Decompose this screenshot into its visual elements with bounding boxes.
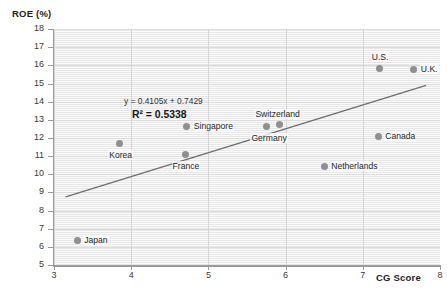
- plot-area: JapanKoreaFranceSingaporeGermanySwitzerl…: [54, 29, 440, 265]
- gridline-horizontal: [54, 29, 440, 30]
- regression-annotation: y = 0.4105x + 0.7429 R² = 0.5338: [124, 96, 203, 120]
- y-tick-mark: [48, 65, 53, 66]
- x-axis-line: [53, 265, 441, 267]
- data-point-label: Switzerland: [254, 109, 300, 119]
- y-tick-mark: [48, 29, 53, 30]
- gridline-horizontal: [54, 229, 440, 230]
- y-tick-label: 8: [14, 205, 44, 215]
- x-tick-mark: [131, 265, 132, 270]
- y-tick-mark: [48, 211, 53, 212]
- y-tick-mark: [48, 156, 53, 157]
- y-tick-label: 17: [14, 41, 44, 51]
- gridline-vertical: [208, 29, 209, 265]
- y-tick-label: 18: [14, 23, 44, 33]
- y-tick-label: 7: [14, 223, 44, 233]
- y-tick-mark: [48, 120, 53, 121]
- y-tick-mark: [48, 229, 53, 230]
- gridline-horizontal: [54, 174, 440, 175]
- data-point-label: France: [172, 161, 201, 171]
- x-tick-mark: [363, 265, 364, 270]
- data-point[interactable]: [263, 123, 270, 130]
- data-point-label: U.S.: [371, 52, 390, 62]
- gridline-horizontal: [54, 138, 440, 139]
- gridline-vertical: [131, 29, 132, 265]
- y-tick-label: 11: [14, 150, 44, 160]
- y-axis-title: ROE (%): [12, 8, 51, 19]
- y-tick-label: 5: [14, 259, 44, 269]
- scatter-chart: ROE (%) JapanKoreaFranceSingaporeGermany…: [0, 0, 447, 292]
- y-tick-label: 10: [14, 168, 44, 178]
- y-tick-mark: [48, 192, 53, 193]
- gridline-horizontal: [54, 84, 440, 85]
- x-tick-mark: [440, 265, 441, 270]
- data-point-label: Japan: [83, 235, 108, 245]
- data-point-label: Singapore: [193, 121, 234, 131]
- x-tick-mark: [54, 265, 55, 270]
- data-point[interactable]: [183, 123, 190, 130]
- y-tick-label: 15: [14, 78, 44, 88]
- data-point[interactable]: [74, 237, 81, 244]
- y-tick-label: 14: [14, 96, 44, 106]
- y-tick-label: 16: [14, 59, 44, 69]
- gridline-horizontal: [54, 120, 440, 121]
- data-point[interactable]: [276, 121, 283, 128]
- data-point-label: U.K.: [420, 64, 439, 74]
- data-point[interactable]: [376, 65, 383, 72]
- x-tick-mark: [208, 265, 209, 270]
- data-point[interactable]: [410, 66, 417, 73]
- data-point-label: Netherlands: [330, 161, 378, 171]
- gridline-vertical: [363, 29, 364, 265]
- data-point-label: Canada: [384, 131, 416, 141]
- data-point[interactable]: [321, 163, 328, 170]
- y-tick-mark: [48, 265, 53, 266]
- x-axis-title: CG Score: [376, 272, 421, 283]
- y-tick-mark: [48, 174, 53, 175]
- y-tick-mark: [48, 138, 53, 139]
- y-tick-label: 12: [14, 132, 44, 142]
- gridline-horizontal: [54, 211, 440, 212]
- regression-equation: y = 0.4105x + 0.7429: [124, 96, 203, 106]
- gridline-vertical: [286, 29, 287, 265]
- gridline-horizontal: [54, 192, 440, 193]
- y-tick-label: 6: [14, 241, 44, 251]
- gridline-horizontal: [54, 47, 440, 48]
- gridline-vertical: [54, 29, 55, 265]
- y-tick-label: 9: [14, 186, 44, 196]
- x-tick-label: 6: [274, 270, 298, 280]
- data-point[interactable]: [375, 133, 382, 140]
- gridline-horizontal: [54, 247, 440, 248]
- y-tick-mark: [48, 247, 53, 248]
- data-point[interactable]: [116, 140, 123, 147]
- y-tick-mark: [48, 47, 53, 48]
- x-tick-label: 8: [428, 270, 447, 280]
- x-tick-mark: [286, 265, 287, 270]
- x-tick-label: 5: [196, 270, 220, 280]
- x-tick-label: 4: [119, 270, 143, 280]
- x-tick-label: 3: [42, 270, 66, 280]
- y-tick-mark: [48, 84, 53, 85]
- x-tick-label: 7: [351, 270, 375, 280]
- y-tick-label: 13: [14, 114, 44, 124]
- y-tick-mark: [48, 102, 53, 103]
- data-point-label: Korea: [108, 150, 133, 160]
- r-squared-value: R² = 0.5338: [132, 109, 203, 120]
- data-point-label: Germany: [250, 133, 287, 143]
- data-point[interactable]: [182, 151, 189, 158]
- gridline-horizontal: [54, 102, 440, 103]
